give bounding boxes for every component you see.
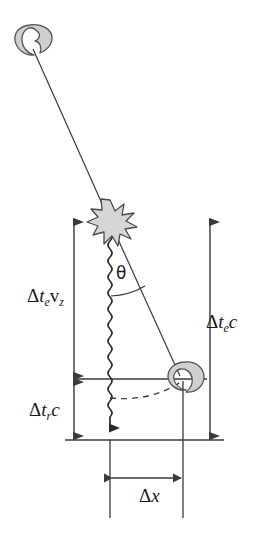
observer-blob-right [168,362,204,392]
label-delta-te-vz-subz: z [59,295,64,309]
dashed-arc [110,382,181,399]
label-delta-te-c: Δtec [206,312,237,334]
diagram-canvas [0,0,269,541]
label-delta-x-delta: Δ [139,485,151,506]
label-delta-te-c-c: c [229,311,237,332]
label-theta: θ [116,265,126,282]
label-delta-tr-c-delta: Δ [29,399,41,420]
label-delta-te-c-delta: Δ [206,311,218,332]
label-delta-tr-c: Δtrc [29,400,60,422]
label-delta-x-x: x [151,485,159,506]
label-delta-te-vz: Δtevz [27,286,64,308]
reference-lines [65,379,224,440]
label-delta-te-vz-delta: Δ [27,285,39,306]
figure-root: Δtevz Δtec Δtrc Δx θ [0,0,269,541]
label-delta-tr-c-c: c [51,399,59,420]
sight-line-lower [112,226,180,376]
label-delta-x: Δx [139,486,160,505]
sight-line-upper [33,49,112,226]
label-delta-te-vz-v: v [50,285,60,306]
